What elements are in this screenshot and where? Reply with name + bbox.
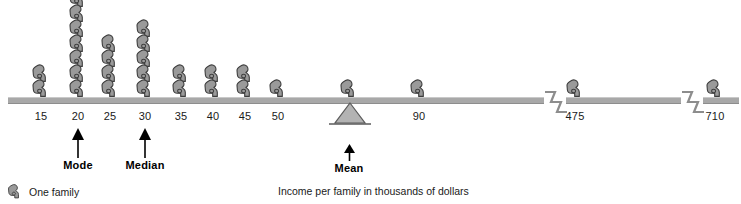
- pictograph-stack: [267, 78, 289, 99]
- family-figure-icon: [234, 78, 256, 99]
- family-figure-icon: [267, 78, 289, 99]
- axis-tick-label: 90: [399, 110, 439, 122]
- family-figure-icon: [564, 78, 586, 99]
- pictograph-stack: [408, 78, 430, 99]
- pictograph-stack: [234, 63, 256, 99]
- pictograph-stack: [564, 78, 586, 99]
- axis-tick-label: 50: [258, 110, 298, 122]
- legend-item-label: One family: [29, 186, 79, 198]
- family-figure-icon: [170, 78, 192, 99]
- pictograph-stack: [134, 18, 156, 99]
- marker-mean: Mean: [319, 144, 379, 174]
- family-figure-icon: [67, 78, 89, 99]
- legend: One family: [6, 183, 79, 200]
- mean-fulcrum-icon: [327, 101, 373, 127]
- income-distribution-pictograph: 15202530354045507090475710 Mode Median M…: [0, 0, 741, 204]
- up-arrow-icon: [138, 128, 152, 158]
- axis-tick-label: 15: [21, 110, 61, 122]
- pictograph-stack: [704, 78, 726, 99]
- pictograph-stack: [99, 33, 121, 99]
- family-figure-icon: [202, 78, 224, 99]
- family-figure-icon: [30, 78, 52, 99]
- marker-mean-label: Mean: [319, 162, 379, 174]
- family-figure-icon: [704, 78, 726, 99]
- axis-tick-label: 710: [695, 110, 735, 122]
- pictograph-stack: [338, 78, 360, 99]
- marker-mode-label: Mode: [48, 159, 108, 171]
- marker-median: Median: [115, 128, 175, 171]
- axis-tick-label: 25: [90, 110, 130, 122]
- family-figure-icon: [99, 78, 121, 99]
- axis-tick-label: 475: [555, 110, 595, 122]
- family-figure-icon: [338, 78, 360, 99]
- marker-median-label: Median: [115, 159, 175, 171]
- pictograph-stack: [67, 0, 89, 99]
- pictograph-stack: [202, 63, 224, 99]
- x-axis-caption: Income per family in thousands of dollar…: [278, 185, 469, 197]
- up-arrow-icon: [343, 144, 356, 161]
- family-figure-icon: [134, 78, 156, 99]
- marker-mode: Mode: [48, 128, 108, 171]
- up-arrow-icon: [71, 128, 85, 158]
- axis-tick-label: 30: [125, 110, 165, 122]
- pictograph-stack: [30, 63, 52, 99]
- pictograph-stack: [170, 63, 192, 99]
- seated-family-figure-icon: [6, 183, 24, 200]
- family-figure-icon: [408, 78, 430, 99]
